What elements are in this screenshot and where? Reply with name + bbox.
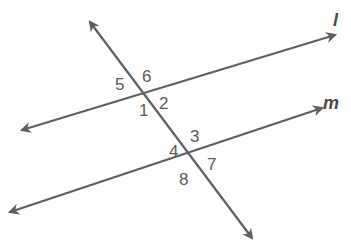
angle-7-label: 7 [207, 155, 216, 174]
transversal-line [90, 22, 252, 238]
angle-8-label: 8 [179, 170, 188, 189]
angle-5-label: 5 [115, 75, 124, 94]
line-l-label: l [333, 10, 339, 30]
angle-6-label: 6 [142, 67, 151, 86]
angle-1-label: 1 [139, 101, 148, 120]
line-l [22, 35, 335, 130]
line-m-label: m [323, 93, 339, 113]
parallel-lines-diagram: l m 5 6 1 2 4 3 8 7 [0, 0, 351, 245]
angle-3-label: 3 [190, 127, 199, 146]
angle-2-label: 2 [159, 94, 168, 113]
angle-4-label: 4 [169, 142, 178, 161]
